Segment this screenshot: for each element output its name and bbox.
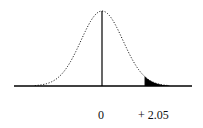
tick-label-zero: 0	[98, 108, 104, 122]
right-tail-shaded-region	[145, 77, 169, 86]
tick-label-critical-value: + 2.05	[138, 108, 169, 122]
